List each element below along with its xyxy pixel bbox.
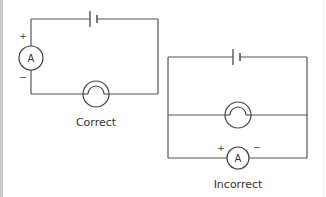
ammeter-negative-sign: − [19, 72, 27, 82]
ammeter-positive-sign: + [19, 31, 27, 41]
ammeter-icon: A [19, 46, 43, 70]
circuit-diagram: A + − Correct [0, 0, 326, 197]
circuit-correct: A + − Correct [19, 11, 158, 129]
caption-correct: Correct [76, 116, 117, 129]
cell-icon [90, 11, 97, 27]
ammeter-negative-sign: − [253, 142, 261, 152]
ammeter-letter: A [28, 53, 35, 64]
caption-incorrect: Incorrect [214, 178, 263, 191]
ammeter-positive-sign: + [217, 143, 225, 153]
circuit-incorrect: A + − Incorrect [168, 49, 307, 191]
cell-icon [233, 49, 240, 65]
lamp-icon [225, 102, 251, 128]
ammeter-icon: A [227, 147, 249, 169]
lamp-icon [83, 81, 109, 107]
ammeter-letter: A [235, 153, 242, 164]
